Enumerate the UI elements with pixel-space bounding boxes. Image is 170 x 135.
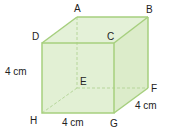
vertex-label-a: A [74, 3, 81, 14]
vertex-label-f: F [151, 83, 157, 94]
vertex-label-b: B [146, 4, 153, 15]
vertex-label-e: E [80, 76, 87, 87]
vertex-label-h: H [30, 115, 37, 126]
cube-diagram: A B D C E F H G 4 cm 4 cm 4 cm [0, 0, 170, 135]
depth-measurement: 4 cm [135, 100, 157, 111]
vertex-label-c: C [107, 31, 114, 42]
height-measurement: 4 cm [5, 66, 27, 77]
width-measurement: 4 cm [62, 117, 84, 128]
vertex-label-d: D [32, 31, 39, 42]
vertex-label-g: G [110, 118, 118, 129]
front-face [42, 43, 114, 113]
